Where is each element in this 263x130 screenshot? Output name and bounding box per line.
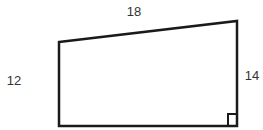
trapezoid-diagram: 18 12 14 xyxy=(0,0,263,130)
right-angle-marker xyxy=(228,114,237,126)
label-top-side: 18 xyxy=(127,4,141,19)
label-left-side: 12 xyxy=(7,73,21,88)
trapezoid-shape xyxy=(59,21,237,126)
label-right-side: 14 xyxy=(245,68,259,83)
